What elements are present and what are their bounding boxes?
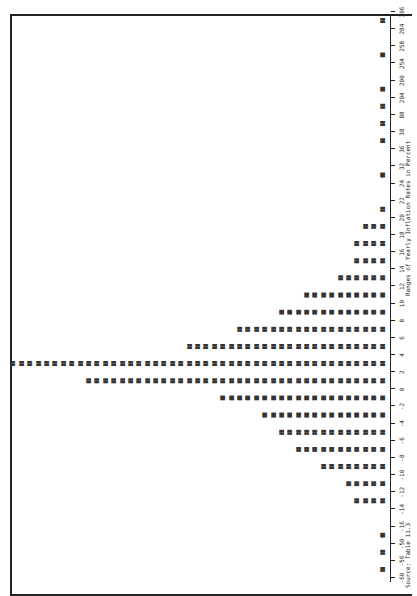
year-entry: ██ [160, 361, 168, 366]
bin-stack: ██ [379, 99, 387, 113]
year-entry: ██ [379, 413, 387, 418]
year-entry: ██ [379, 52, 387, 57]
year-entry: ██ [328, 430, 336, 435]
year-entry: ██ [362, 258, 370, 263]
year-entry: ██ [370, 293, 378, 298]
year-entry: ██ [60, 361, 68, 366]
year-entry: ██ [286, 310, 294, 315]
year-entry: ██ [211, 344, 219, 349]
year-entry: ██ [320, 464, 328, 469]
bin-stack: ████████████████████████████████████████ [219, 391, 387, 405]
year-entry: ██ [311, 396, 319, 401]
tick-mark [391, 491, 395, 492]
tick-mark [391, 148, 395, 149]
year-entry: ██ [236, 378, 244, 383]
year-entry: ██ [303, 396, 311, 401]
year-entry: ██ [379, 258, 387, 263]
year-entry: ██ [320, 413, 328, 418]
year-entry: ██ [353, 498, 361, 503]
tick-mark [391, 354, 395, 355]
year-entry: ██ [362, 396, 370, 401]
year-entry: ██ [93, 378, 101, 383]
year-entry: ██ [337, 396, 345, 401]
tick-label: 200 [398, 71, 405, 91]
year-entry: ██ [337, 464, 345, 469]
bin-stack: ██ [379, 134, 387, 148]
year-entry: ██ [253, 344, 261, 349]
year-entry: ██ [270, 344, 278, 349]
year-entry: ██ [345, 430, 353, 435]
tick-mark [391, 474, 395, 475]
year-entry: ██ [219, 378, 227, 383]
tick-label: -4 [398, 414, 405, 434]
year-entry: ██ [353, 327, 361, 332]
year-entry: ██ [253, 396, 261, 401]
tick-mark [391, 543, 395, 544]
bin-stack: ████████████████████████████████████████… [9, 357, 387, 371]
year-entry: ██ [370, 481, 378, 486]
year-entry: ██ [253, 361, 261, 366]
tick-label: -2 [398, 397, 405, 417]
year-entry: ██ [328, 344, 336, 349]
bin-stack: ██████████ [345, 477, 387, 491]
bin-stack: ██ [379, 82, 387, 96]
year-entry: ██ [135, 378, 143, 383]
year-entry: ██ [169, 361, 177, 366]
year-entry: ██ [18, 361, 26, 366]
bin-stack: ██ [379, 528, 387, 542]
year-entry: ██ [135, 361, 143, 366]
year-entry: ██ [370, 224, 378, 229]
bin-stack: ████████████ [337, 271, 387, 285]
year-entry: ██ [102, 378, 110, 383]
year-entry: ██ [379, 138, 387, 143]
year-entry: ██ [278, 396, 286, 401]
year-entry: ██ [320, 293, 328, 298]
year-entry: ██ [110, 378, 118, 383]
year-entry: ██ [320, 344, 328, 349]
bin-stack: ██ [379, 545, 387, 559]
tick-mark [391, 577, 395, 578]
year-entry: ██ [244, 327, 252, 332]
year-entry: ██ [194, 361, 202, 366]
year-entry: ██ [311, 293, 319, 298]
year-entry: ██ [320, 396, 328, 401]
tick-mark [391, 268, 395, 269]
year-entry: ██ [119, 361, 127, 366]
tick-label: 284 [398, 19, 405, 39]
tick-label: 306 [398, 2, 405, 22]
tick-label: -10 [398, 465, 405, 485]
year-entry: ██ [286, 430, 294, 435]
year-entry: ██ [328, 293, 336, 298]
year-entry: ██ [35, 361, 43, 366]
year-entry: ██ [379, 275, 387, 280]
year-entry: ██ [110, 361, 118, 366]
year-entry: ██ [160, 378, 168, 383]
tick-mark [391, 388, 395, 389]
year-entry: ██ [353, 275, 361, 280]
tick-mark [391, 97, 395, 98]
year-entry: ██ [311, 413, 319, 418]
tick-label: -14 [398, 499, 405, 519]
year-entry: ██ [236, 327, 244, 332]
year-entry: ██ [320, 327, 328, 332]
year-entry: ██ [328, 464, 336, 469]
tick-label: 4 [398, 345, 405, 365]
year-entry: ██ [345, 275, 353, 280]
year-entry: ██ [236, 396, 244, 401]
year-entry: ██ [93, 361, 101, 366]
year-entry: ██ [177, 361, 185, 366]
year-entry: ██ [295, 327, 303, 332]
year-entry: ██ [328, 378, 336, 383]
year-entry: ██ [228, 378, 236, 383]
year-entry: ██ [379, 498, 387, 503]
bin-stack: ████████████████ [320, 460, 387, 474]
year-entry: ██ [152, 378, 160, 383]
year-entry: ██ [270, 413, 278, 418]
year-entry: ██ [353, 241, 361, 246]
year-entry: ██ [379, 550, 387, 555]
year-entry: ██ [286, 327, 294, 332]
year-entry: ██ [144, 361, 152, 366]
bin-stack: ██████████████████████████ [278, 305, 387, 319]
year-entry: ██ [303, 293, 311, 298]
year-entry: ██ [211, 378, 219, 383]
